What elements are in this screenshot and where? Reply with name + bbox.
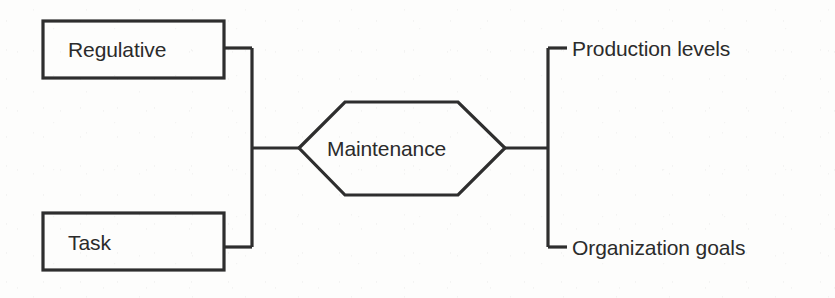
output-organization-goals[interactable]: Organization goals [572, 236, 745, 259]
regulative-label: Regulative [68, 38, 166, 61]
production-levels-label: Production levels [572, 37, 730, 60]
output-production-levels[interactable]: Production levels [572, 37, 730, 60]
diagram-canvas: Regulative Task Maintenance Production l… [0, 0, 835, 298]
output-bracket-connector [505, 48, 567, 247]
maintenance-label: Maintenance [327, 137, 446, 160]
organization-goals-label: Organization goals [572, 236, 745, 259]
block-diagram: Regulative Task Maintenance Production l… [0, 0, 835, 298]
node-task[interactable]: Task [43, 213, 224, 270]
task-label: Task [68, 231, 111, 254]
node-regulative[interactable]: Regulative [43, 21, 224, 78]
node-maintenance[interactable]: Maintenance [299, 102, 505, 195]
input-bracket-connector [224, 48, 299, 247]
